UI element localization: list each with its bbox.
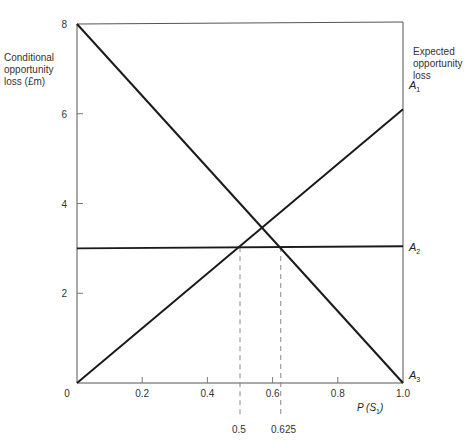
series-label-sub: 3: [416, 376, 420, 383]
x-axis-label: P (S1): [357, 402, 383, 415]
y-label-line: Conditional: [4, 52, 54, 64]
top-border: [77, 22, 403, 24]
series-label-a3: A3: [409, 369, 420, 383]
series-line-a2: [77, 246, 403, 248]
dash-label-0-5: 0.5: [232, 424, 246, 436]
x-tick-label: 0: [64, 388, 70, 399]
y-axis-label-right: Expected opportunity loss: [413, 46, 462, 82]
axis-ticks: 00.20.40.60.81.02468: [61, 19, 410, 399]
y-label-line: loss (£m): [4, 76, 54, 88]
x-label-text: P (S: [357, 402, 376, 413]
y-label-line: opportunity: [4, 64, 54, 76]
series-label-sub: 1: [416, 86, 420, 93]
y-tick-label: 8: [61, 19, 67, 30]
y-axis-label-left: Conditional opportunity loss (£m): [4, 52, 54, 88]
x-tick-label: 0.6: [266, 388, 280, 399]
chart-canvas: 00.20.40.60.81.02468: [0, 0, 476, 448]
series-label-a2: A2: [409, 241, 420, 255]
y-label-line: Expected: [413, 46, 462, 58]
series-label-sub: 2: [416, 248, 420, 255]
series-label-a1: A1: [409, 79, 420, 93]
y-tick-label: 2: [61, 288, 67, 299]
dash-label-0-625: 0.625: [271, 424, 296, 436]
y-tick-label: 6: [61, 109, 67, 120]
x-tick-label: 1.0: [396, 388, 410, 399]
y-tick-label: 4: [61, 199, 67, 210]
x-tick-label: 0.8: [331, 388, 345, 399]
x-tick-label: 0.2: [135, 388, 149, 399]
x-label-close: ): [380, 402, 383, 413]
x-tick-label: 0.4: [200, 388, 214, 399]
y-label-line: loss: [413, 70, 462, 82]
y-label-line: opportunity: [413, 58, 462, 70]
